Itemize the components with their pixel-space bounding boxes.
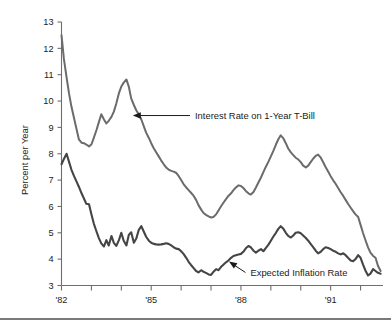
y-tick-label: 11 — [44, 70, 54, 80]
footer-rule — [0, 318, 391, 320]
y-tick-label: 6 — [48, 202, 53, 212]
x-tick-label: '88 — [235, 295, 247, 305]
y-axis-ticks — [58, 22, 62, 286]
x-tick-label: '91 — [325, 295, 337, 305]
x-axis-ticks — [62, 286, 361, 291]
series-lines — [62, 35, 381, 275]
y-tick-label: 8 — [48, 149, 53, 159]
y-tick-label: 12 — [43, 44, 53, 54]
y-tick-label: 4 — [48, 254, 53, 264]
y-axis-title: Percent per Year — [19, 125, 30, 195]
annotation-arrowhead-expected-inflation — [229, 261, 237, 268]
annotation-label-interest-rate: Interest Rate on 1-Year T-Bill — [195, 110, 315, 121]
y-tick-label: 7 — [48, 175, 53, 185]
series-line-interest-rate — [62, 35, 381, 271]
annotation-label-expected-inflation: Expected Inflation Rate — [250, 267, 347, 278]
x-tick-label: '82 — [56, 295, 68, 305]
x-axis-tick-labels: '82'85'88'91 — [56, 295, 337, 305]
y-tick-label: 9 — [48, 123, 53, 133]
y-tick-label: 5 — [48, 228, 53, 238]
y-tick-label: 13 — [43, 17, 53, 27]
line-chart: Percent per Year 345678910111213 '82'85'… — [0, 0, 391, 332]
chart-annotations: Interest Rate on 1-Year T-BillExpected I… — [133, 110, 348, 278]
y-tick-label: 3 — [48, 281, 53, 291]
annotation-arrowhead-interest-rate — [133, 112, 141, 119]
figure-container: Percent per Year 345678910111213 '82'85'… — [0, 0, 391, 332]
x-tick-label: '85 — [145, 295, 157, 305]
y-axis-tick-labels: 345678910111213 — [43, 17, 53, 291]
y-tick-label: 10 — [43, 96, 53, 106]
series-line-expected-inflation — [62, 154, 381, 276]
